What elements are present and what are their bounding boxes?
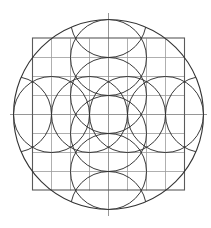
axes [10,13,207,216]
axis-circles [0,0,211,228]
geometric-diagram [0,0,211,228]
